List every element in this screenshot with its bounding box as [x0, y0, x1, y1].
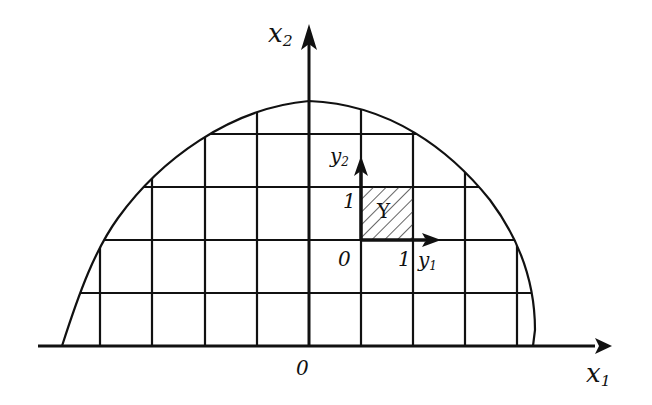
y1-label-sub: 1 [429, 259, 437, 273]
x1-label-letter: x [586, 358, 601, 388]
x2-axis [301, 24, 317, 346]
y2-label-letter: y [330, 144, 341, 168]
origin-label: 0 [296, 358, 309, 378]
diagram-canvas [0, 0, 652, 405]
local-origin-label: 0 [338, 249, 351, 269]
y1-tick-label: 1 [398, 249, 411, 269]
x1-label-sub: 1 [601, 372, 611, 390]
x1-axis [38, 338, 612, 354]
y2-tick-label: 1 [343, 191, 356, 211]
x1-axis-label: x1 [586, 360, 611, 389]
x2-label-sub: 2 [283, 32, 293, 50]
y2-axis-label: y2 [330, 146, 349, 168]
y1-label-letter: y [418, 248, 429, 272]
cell-y-label: Y [377, 201, 390, 221]
x2-axis-label: x2 [268, 20, 293, 49]
y1-axis-label: y1 [418, 250, 437, 272]
y2-label-sub: 2 [341, 155, 349, 169]
x2-label-letter: x [268, 18, 283, 48]
x1-arrow-icon [595, 338, 612, 354]
